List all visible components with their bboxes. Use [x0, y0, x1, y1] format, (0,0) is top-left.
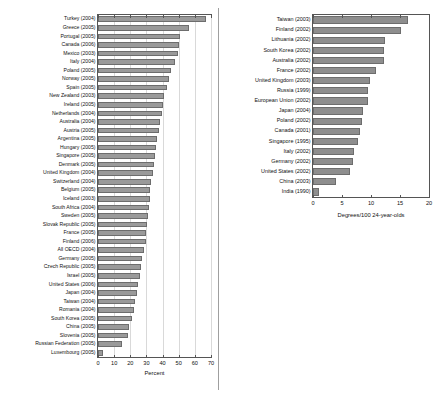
bar-row	[98, 136, 211, 142]
bar-row	[98, 264, 211, 270]
bar	[98, 59, 175, 65]
category-label: Japan (2004)	[65, 290, 95, 295]
bar	[98, 25, 189, 31]
gridline	[130, 15, 131, 357]
category-label: Lithuania (2002)	[272, 37, 311, 42]
category-label: India (1990)	[282, 189, 311, 194]
bar-row	[313, 47, 429, 54]
right-x-axis-title: Degrees/100 24-year-olds	[312, 212, 430, 219]
bar-row	[98, 187, 211, 193]
category-label: Taiwan (2003)	[277, 17, 311, 22]
bar-row	[98, 324, 211, 330]
axis-tick	[130, 355, 131, 358]
bar	[98, 333, 128, 339]
bar-row	[98, 239, 211, 245]
axis-tick	[211, 15, 212, 18]
bar	[98, 34, 180, 40]
bar-row	[98, 307, 211, 313]
gridline	[146, 15, 147, 357]
category-label: France (2005)	[64, 230, 96, 235]
category-label: Taiwan (2004)	[64, 299, 96, 304]
bar	[313, 148, 354, 155]
bar-row	[98, 162, 211, 168]
bar	[98, 282, 138, 288]
bar-row	[313, 138, 429, 145]
category-label: Denmark (2005)	[59, 162, 96, 167]
axis-tick	[179, 355, 180, 358]
category-label: Poland (2002)	[277, 118, 311, 123]
bar-row	[313, 77, 429, 84]
bar-row	[98, 93, 211, 99]
axis-tick	[98, 15, 99, 18]
bar-row	[98, 153, 211, 159]
axis-tick	[130, 15, 131, 18]
bar	[313, 168, 350, 175]
bar	[313, 37, 385, 44]
axis-tick	[313, 15, 314, 18]
bar-row	[313, 87, 429, 94]
bar	[98, 324, 129, 330]
bar	[98, 111, 162, 117]
bar	[98, 170, 153, 176]
category-label: Slovak Republic (2005)	[43, 222, 96, 227]
axis-tick	[179, 15, 180, 18]
bar	[98, 205, 149, 211]
bar	[98, 290, 137, 296]
bar	[98, 187, 150, 193]
axis-tick-label: 20	[419, 200, 439, 206]
category-label: European Union (2002)	[254, 98, 310, 103]
category-label: Switzerland (2004)	[53, 179, 95, 184]
category-label: Hungary (2005)	[60, 145, 95, 150]
bar	[98, 213, 148, 219]
category-label: Finland (2006)	[63, 239, 96, 244]
bar-row	[98, 25, 211, 31]
bar-row	[98, 34, 211, 40]
axis-tick	[211, 355, 212, 358]
bar-row	[98, 128, 211, 134]
bar	[98, 179, 151, 185]
category-label: Norway (2005)	[62, 76, 95, 81]
bar	[98, 273, 140, 279]
axis-tick	[342, 15, 343, 18]
bar-row	[98, 333, 211, 339]
category-label: Turkey (2004)	[64, 16, 96, 21]
category-label: China (2003)	[279, 179, 310, 184]
category-label: Israel (2005)	[67, 273, 96, 278]
category-label: Belgium (2005)	[61, 187, 96, 192]
axis-tick	[342, 195, 343, 198]
category-label: Germany (2005)	[58, 256, 95, 261]
category-label: Italy (2004)	[70, 59, 95, 64]
bar	[98, 128, 159, 134]
left-x-axis-title: Percent	[97, 370, 212, 377]
category-label: Singapore (2005)	[56, 153, 95, 158]
axis-tick	[371, 195, 372, 198]
bar-row	[313, 148, 429, 155]
category-label: Poland (2005)	[63, 68, 95, 73]
category-label: Canada (2006)	[62, 42, 96, 47]
axis-tick	[195, 355, 196, 358]
gridline	[114, 15, 115, 357]
axis-tick	[163, 355, 164, 358]
axis-tick	[371, 15, 372, 18]
right-bar-chart-panel: Taiwan (2003)Finland (2002)Lithuania (20…	[221, 0, 443, 398]
bar-row	[98, 341, 211, 347]
bar-row	[98, 76, 211, 82]
bar-row	[313, 168, 429, 175]
category-label: Australia (2002)	[272, 58, 310, 63]
bar-row	[98, 170, 211, 176]
bar-row	[98, 205, 211, 211]
bar	[313, 67, 376, 74]
category-label: Russian Federation (2005)	[35, 341, 95, 346]
category-label: Austria (2005)	[64, 128, 96, 133]
axis-tick	[429, 195, 430, 198]
gridline	[211, 15, 212, 357]
category-label: Greece (2005)	[63, 25, 96, 30]
category-label: Luxembourg (2005)	[51, 350, 95, 355]
bar-row	[98, 299, 211, 305]
axis-tick	[429, 15, 430, 18]
category-label: South Africa (2004)	[52, 205, 96, 210]
category-label: Canada (2001)	[275, 128, 311, 133]
bar	[313, 57, 384, 64]
bar	[98, 85, 167, 91]
bar-row	[98, 282, 211, 288]
